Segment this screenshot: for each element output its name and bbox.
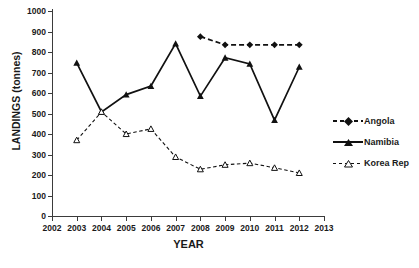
y-tick bbox=[48, 175, 52, 176]
data-point bbox=[296, 64, 303, 70]
y-tick bbox=[48, 216, 52, 217]
y-tick bbox=[48, 93, 52, 94]
legend-label-namibia: Namibia bbox=[364, 137, 399, 147]
legend-key-korea-rep-icon bbox=[333, 157, 363, 169]
series-namibia bbox=[73, 40, 302, 123]
chart-legend: Angola Namibia Korea Rep bbox=[333, 110, 419, 173]
legend-item-namibia[interactable]: Namibia bbox=[333, 131, 419, 152]
data-point bbox=[148, 126, 154, 132]
series-korea-rep bbox=[74, 109, 303, 176]
data-point bbox=[247, 160, 253, 166]
data-point bbox=[73, 59, 80, 65]
legend-key-angola-icon bbox=[333, 115, 363, 127]
legend-item-korea-rep[interactable]: Korea Rep bbox=[333, 152, 419, 173]
y-tick bbox=[48, 134, 52, 135]
y-tick bbox=[48, 155, 52, 156]
data-point bbox=[172, 40, 179, 46]
y-tick bbox=[48, 52, 52, 53]
y-tick bbox=[48, 32, 52, 33]
data-point bbox=[246, 41, 253, 48]
legend-label-angola: Angola bbox=[364, 116, 395, 126]
legend-key-namibia-icon bbox=[333, 136, 363, 148]
y-tick bbox=[48, 73, 52, 74]
data-point bbox=[271, 117, 278, 123]
y-tick bbox=[48, 196, 52, 197]
data-point bbox=[222, 41, 229, 48]
series-line bbox=[77, 112, 300, 173]
data-point bbox=[271, 41, 278, 48]
legend-item-angola[interactable]: Angola bbox=[333, 110, 419, 131]
legend-label-korea: Korea Rep bbox=[364, 158, 409, 168]
series-line bbox=[77, 44, 300, 121]
data-point bbox=[197, 33, 204, 40]
series-angola bbox=[197, 33, 303, 48]
data-point bbox=[296, 41, 303, 48]
y-tick bbox=[48, 114, 52, 115]
data-point bbox=[173, 154, 179, 160]
y-tick bbox=[48, 11, 52, 12]
chart-figure: 01002003004005006007008009001000 2002200… bbox=[0, 0, 419, 268]
